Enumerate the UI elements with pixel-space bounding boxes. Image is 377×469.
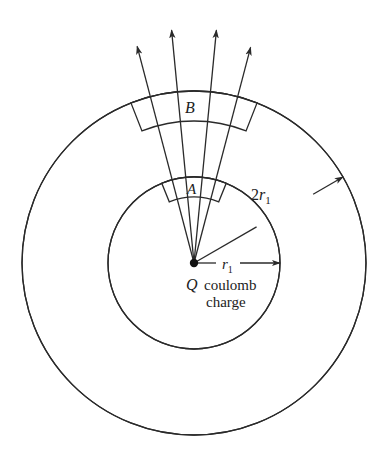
field-line-arrow (172, 30, 194, 263)
field-line-arrow (194, 47, 251, 263)
label-r1: r1 (222, 256, 233, 275)
field-line-arrow (137, 46, 194, 263)
label-a: A (186, 181, 197, 197)
field-line-arrow (194, 30, 216, 263)
diagram-canvas: BA2r1r1Qcoulombcharge (0, 0, 377, 469)
label-2r1: 2r1 (251, 186, 271, 206)
label-charge: charge (206, 294, 246, 310)
label-b: B (185, 99, 195, 116)
label-coulomb: coulomb (204, 277, 257, 293)
point-charge (190, 259, 198, 267)
outer-radius-arrow (313, 177, 343, 194)
label-q: Q (186, 276, 198, 293)
gauss-flux-diagram: BA2r1r1Qcoulombcharge (0, 0, 377, 469)
